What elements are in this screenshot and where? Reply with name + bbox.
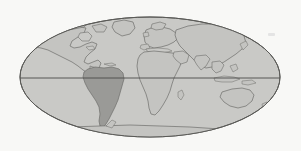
landmass-antarctica [18,125,282,143]
world-map-figure [0,0,301,151]
scan-artifact [268,33,275,36]
world-map-svg [0,0,301,151]
landmass-british-isles [143,32,149,37]
